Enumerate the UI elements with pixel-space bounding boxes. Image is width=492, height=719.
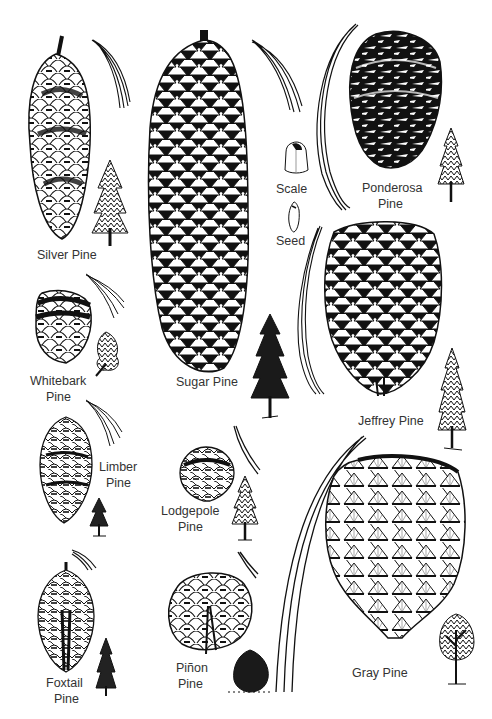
limber-pine-label-line2: Pine: [106, 475, 131, 491]
lodgepole-pine-label-line1: Lodgepole: [161, 503, 219, 519]
silver-pine-needles: [90, 38, 130, 108]
limber-pine-label-line1: Limber: [99, 459, 137, 475]
sugar-pine-scale: [282, 140, 310, 176]
silver-pine-label: Silver Pine: [37, 247, 97, 263]
ponderosa-pine-tree: [436, 126, 466, 206]
limber-pine-needles: [84, 398, 124, 448]
foxtail-pine-label-line2: Pine: [54, 691, 79, 707]
foxtail-pine-needles: [70, 548, 100, 572]
lodgepole-pine-tree: [230, 474, 260, 542]
whitebark-pine-tree: [90, 328, 124, 378]
whitebark-pine-needles: [84, 272, 126, 322]
silver-pine-tree: [90, 158, 130, 248]
scale-label: Scale: [276, 181, 307, 197]
sugar-pine-cone: [144, 28, 254, 376]
pinon-pine-label-line2: Pine: [178, 676, 203, 692]
pinon-pine-tree: [226, 648, 274, 694]
lodgepole-pine-cone: [178, 445, 236, 503]
ponderosa-pine-label-line2: Pine: [378, 196, 403, 212]
sugar-pine-label: Sugar Pine: [176, 374, 238, 390]
whitebark-pine-label-line2: Pine: [46, 389, 71, 405]
ponderosa-pine-cone: [346, 28, 444, 174]
foxtail-pine-label-line1: Foxtail: [46, 675, 83, 691]
limber-pine-tree: [88, 496, 110, 538]
whitebark-pine-label-line1: Whitebark: [30, 373, 86, 389]
pine-cone-illustration: Silver Pine Whitebark Pine: [0, 0, 492, 719]
foxtail-pine-tree: [94, 636, 118, 698]
lodgepole-pine-label-line2: Pine: [178, 519, 203, 535]
sugar-pine-tree: [250, 312, 290, 420]
foxtail-pine-cone: [36, 560, 98, 676]
jeffrey-pine-tree: [436, 346, 468, 452]
pinon-pine-label-line1: Piñon: [176, 660, 208, 676]
jeffrey-pine-cone: [320, 218, 444, 398]
gray-pine-tree: [436, 610, 476, 688]
sugar-pine-needles: [250, 38, 304, 114]
lodgepole-pine-needles: [232, 424, 262, 476]
jeffrey-pine-label: Jeffrey Pine: [358, 413, 424, 429]
ponderosa-pine-label-line1: Ponderosa: [362, 180, 422, 196]
pinon-pine-needles: [236, 550, 260, 582]
gray-pine-label: Gray Pine: [352, 665, 408, 681]
